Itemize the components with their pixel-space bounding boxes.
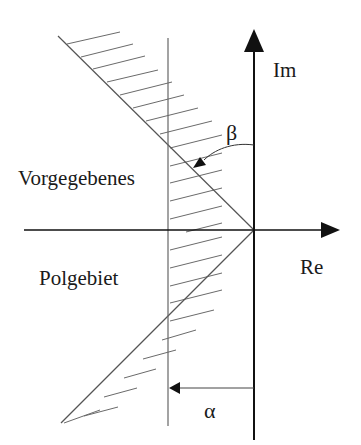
hatching-upper: [67, 32, 222, 232]
alpha-distance-label: α: [204, 400, 216, 422]
pole-region-diagram: Im Re β α Vorgegebenes Polgebiet: [0, 0, 361, 445]
imaginary-axis-label: Im: [273, 60, 296, 81]
diagram-graphics: [0, 0, 361, 445]
region-label-line2: Polgebiet: [39, 268, 118, 289]
imaginary-axis-arrowhead: [244, 29, 264, 52]
real-axis-label: Re: [300, 257, 323, 278]
beta-arrowhead: [193, 157, 206, 168]
alpha-arrowhead: [169, 382, 180, 394]
lower-boundary-line: [61, 230, 254, 423]
beta-arc: [204, 144, 254, 160]
beta-angle-label: β: [226, 122, 237, 144]
hatching-lower: [64, 237, 222, 423]
real-axis-arrowhead: [321, 222, 340, 238]
region-label-line1: Vorgegebenes: [18, 168, 135, 189]
upper-boundary-line: [58, 36, 254, 230]
